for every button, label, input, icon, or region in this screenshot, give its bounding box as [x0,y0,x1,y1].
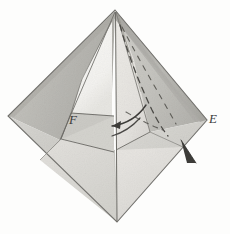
origami-illustration [0,0,230,234]
vertex-label-E: E [209,112,217,125]
origami-figure: E F [0,0,230,234]
vertex-label-F: F [69,113,77,126]
facet-bottom-left [40,139,117,222]
